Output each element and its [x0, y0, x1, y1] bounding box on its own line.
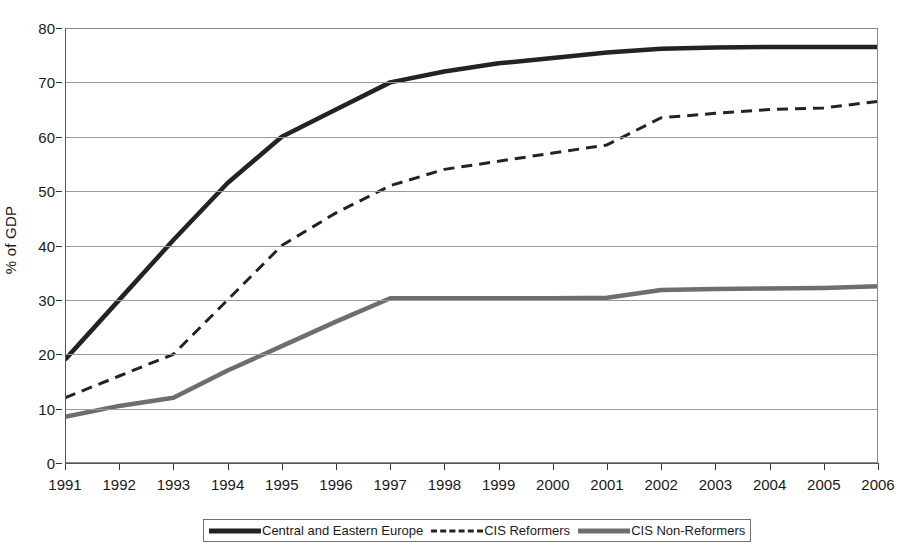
x-tick-mark [715, 463, 716, 470]
gridline [65, 191, 878, 192]
gridline [65, 246, 878, 247]
x-tick-label: 2001 [577, 476, 637, 493]
solid-dark-line-icon [209, 525, 261, 537]
y-tick-mark [56, 191, 62, 192]
solid-gray-line-icon [578, 525, 630, 537]
x-tick-label: 1999 [469, 476, 529, 493]
y-tick-label: 10 [0, 401, 62, 416]
x-tick-label: 1995 [252, 476, 312, 493]
x-tick-label: 2000 [523, 476, 583, 493]
x-axis: 1991199219931994199519961997199819992000… [65, 463, 878, 503]
gridline [65, 409, 878, 410]
y-tick-mark [56, 82, 62, 83]
legend-item-label: CIS Reformers [484, 524, 570, 537]
x-axis-line [65, 463, 878, 464]
x-tick-mark [607, 463, 608, 470]
y-tick-label: 20 [0, 347, 62, 362]
y-tick-label: 40 [0, 238, 62, 253]
x-tick-mark [65, 463, 66, 470]
x-tick-mark [770, 463, 771, 470]
x-tick-mark [553, 463, 554, 470]
x-tick-mark [336, 463, 337, 470]
x-tick-mark [282, 463, 283, 470]
y-tick-mark [56, 409, 62, 410]
x-tick-label: 1994 [198, 476, 258, 493]
x-tick-label: 1993 [143, 476, 203, 493]
series-line [65, 286, 878, 417]
y-tick-mark [56, 300, 62, 301]
y-tick-mark [56, 246, 62, 247]
y-tick-mark [56, 137, 62, 138]
x-tick-label: 2005 [794, 476, 854, 493]
x-tick-mark [173, 463, 174, 470]
x-tick-mark [119, 463, 120, 470]
legend-item: CIS Non-Reformers [578, 524, 745, 537]
x-tick-mark [661, 463, 662, 470]
legend-item-label: CIS Non-Reformers [631, 524, 745, 537]
y-tick-mark [56, 354, 62, 355]
y-tick-label: 30 [0, 292, 62, 307]
x-tick-label: 1998 [414, 476, 474, 493]
x-tick-mark [228, 463, 229, 470]
x-tick-label: 1992 [89, 476, 149, 493]
legend-item: CIS Reformers [431, 524, 570, 537]
x-tick-mark [878, 463, 879, 470]
y-tick-mark [56, 463, 62, 464]
gridline [65, 354, 878, 355]
x-tick-mark [390, 463, 391, 470]
y-axis-tick-labels: 01020304050607080 [0, 0, 62, 553]
x-tick-label: 2006 [848, 476, 899, 493]
y-tick-label: 50 [0, 184, 62, 199]
plot-area [65, 28, 878, 463]
gridline [65, 137, 878, 138]
x-tick-label: 1996 [306, 476, 366, 493]
dashed-line-icon [431, 525, 483, 537]
x-tick-label: 1991 [35, 476, 95, 493]
x-tick-mark [499, 463, 500, 470]
legend-item: Central and Eastern Europe [209, 524, 423, 537]
x-tick-label: 2004 [740, 476, 800, 493]
y-tick-label: 60 [0, 129, 62, 144]
x-tick-label: 2002 [631, 476, 691, 493]
x-tick-label: 2003 [685, 476, 745, 493]
gridline [65, 300, 878, 301]
legend-item-label: Central and Eastern Europe [262, 524, 423, 537]
chart-legend: Central and Eastern EuropeCIS ReformersC… [203, 519, 751, 542]
y-tick-label: 0 [0, 456, 62, 471]
y-tick-mark [56, 28, 62, 29]
y-tick-label: 80 [0, 21, 62, 36]
x-tick-label: 1997 [360, 476, 420, 493]
x-tick-mark [444, 463, 445, 470]
y-tick-label: 70 [0, 75, 62, 90]
gridline [65, 82, 878, 83]
series-line [65, 47, 878, 360]
x-tick-mark [824, 463, 825, 470]
